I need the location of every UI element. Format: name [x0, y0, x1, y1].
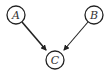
node-a: A: [7, 6, 25, 24]
node-b-label: B: [89, 9, 98, 22]
edge-b-to-c: [64, 22, 88, 50]
graph-diagram: A B C: [0, 0, 112, 73]
node-a-label: A: [11, 9, 20, 22]
node-c: C: [46, 51, 64, 69]
edge-a-to-c: [22, 22, 46, 50]
node-c-label: C: [51, 54, 60, 67]
node-b: B: [85, 6, 103, 24]
